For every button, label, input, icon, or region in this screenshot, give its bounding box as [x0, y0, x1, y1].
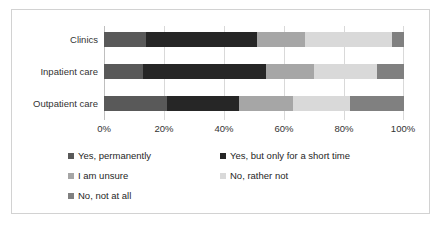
bar-segment[interactable] — [392, 32, 404, 47]
legend-item-i-am-unsure[interactable]: I am unsure — [68, 170, 220, 182]
chart-frame: Clinics Inpatient care Outpatient care 0… — [11, 9, 430, 214]
legend-label: No, not at all — [78, 190, 131, 202]
category-label-outpatient-care: Outpatient care — [12, 96, 98, 111]
plot-area: Clinics Inpatient care Outpatient care — [104, 26, 404, 120]
bar-segment[interactable] — [146, 32, 257, 47]
bar-segment[interactable] — [104, 96, 167, 111]
legend-swatch-icon — [68, 173, 74, 179]
bar-segment[interactable] — [305, 32, 392, 47]
bar-segment[interactable] — [104, 32, 146, 47]
legend-label: Yes, but only for a short time — [230, 150, 350, 162]
legend-item-no-not-at-all[interactable]: No, not at all — [68, 190, 220, 202]
tick-label: 0% — [97, 123, 111, 134]
tick-label: 40% — [214, 123, 233, 134]
legend-label: I am unsure — [78, 170, 128, 182]
bar-segment[interactable] — [257, 32, 305, 47]
category-label-clinics: Clinics — [12, 32, 98, 47]
legend-item-yes-permanently[interactable]: Yes, permanently — [68, 150, 220, 162]
x-axis-tick-labels: 0% 20% 40% 60% 80% 100% — [104, 123, 404, 139]
bar-segment[interactable] — [167, 96, 239, 111]
legend-row: No, not at all — [68, 186, 408, 206]
bar-segment[interactable] — [239, 96, 293, 111]
legend-row: I am unsure No, rather not — [68, 166, 408, 186]
legend-swatch-icon — [68, 153, 74, 159]
bar-segment[interactable] — [104, 64, 143, 79]
bar-row[interactable]: Clinics — [104, 32, 404, 47]
chart-legend: Yes, permanently Yes, but only for a sho… — [68, 146, 408, 206]
bar-segment[interactable] — [377, 64, 404, 79]
legend-item-no-rather-not[interactable]: No, rather not — [220, 170, 288, 182]
legend-swatch-icon — [220, 153, 226, 159]
bar-segment[interactable] — [293, 96, 350, 111]
category-label-inpatient-care: Inpatient care — [12, 64, 98, 79]
legend-row: Yes, permanently Yes, but only for a sho… — [68, 146, 408, 166]
bar-segment[interactable] — [266, 64, 314, 79]
legend-swatch-icon — [68, 193, 74, 199]
bar-segment[interactable] — [314, 64, 377, 79]
bar-row[interactable]: Inpatient care — [104, 64, 404, 79]
tick-label: 80% — [334, 123, 353, 134]
tick-label: 100% — [391, 123, 415, 134]
tick-label: 20% — [154, 123, 173, 134]
legend-label: Yes, permanently — [78, 150, 151, 162]
bar-row[interactable]: Outpatient care — [104, 96, 404, 111]
bar-segment[interactable] — [143, 64, 266, 79]
tick-label: 60% — [274, 123, 293, 134]
bar-segment[interactable] — [350, 96, 404, 111]
legend-swatch-icon — [220, 173, 226, 179]
legend-label: No, rather not — [230, 170, 288, 182]
legend-item-yes-short-time[interactable]: Yes, but only for a short time — [220, 150, 350, 162]
